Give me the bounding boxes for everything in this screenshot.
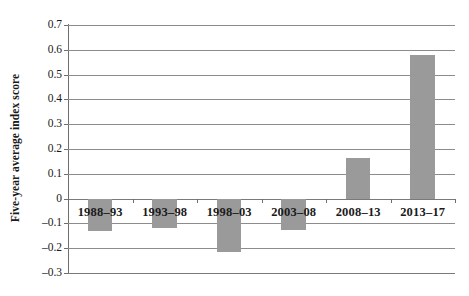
- category-label: 1988–93: [68, 205, 133, 220]
- x-tick-mark: [326, 199, 327, 203]
- y-axis-title: Five-year average index score: [0, 0, 30, 296]
- x-tick-mark: [133, 199, 134, 203]
- bar-chart: Five-year average index score 0.70.60.50…: [0, 0, 469, 296]
- x-tick-mark: [455, 199, 456, 203]
- x-tick-mark: [68, 199, 69, 203]
- x-tick-mark: [197, 199, 198, 203]
- gridline: [68, 273, 455, 274]
- category-label: 1993–98: [133, 205, 198, 220]
- category-axis-labels: 1988–931993–981998–032003–082008–132013–…: [68, 205, 455, 220]
- plot-area: 1988–931993–981998–032003–082008–132013–…: [68, 25, 455, 273]
- bar: [410, 55, 435, 199]
- x-tick-mark: [262, 199, 263, 203]
- category-label: 2008–13: [326, 205, 391, 220]
- category-label: 2013–17: [391, 205, 456, 220]
- category-label: 1998–03: [197, 205, 262, 220]
- x-tick-mark: [391, 199, 392, 203]
- category-label: 2003–08: [262, 205, 327, 220]
- bar: [346, 158, 371, 199]
- bars-layer: [68, 25, 455, 273]
